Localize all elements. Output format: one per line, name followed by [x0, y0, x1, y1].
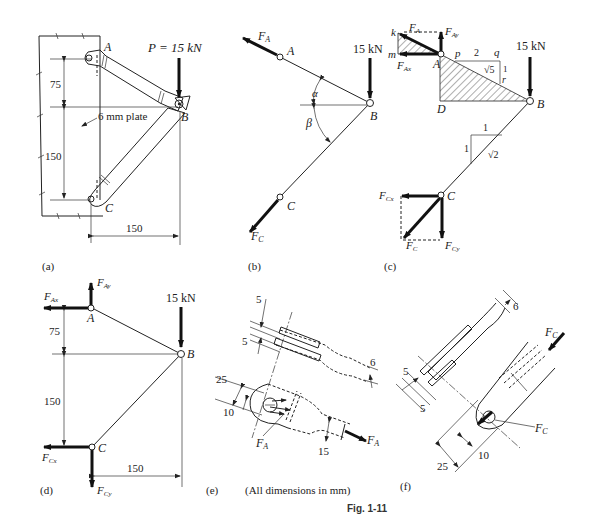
panel-c: p 2 q √5 1 r 1 1 √2 15 kN k m FA FAy FAx…	[378, 21, 546, 273]
plate-note: 6 mm plate	[98, 110, 148, 122]
dim-150-vertical: 150	[45, 150, 62, 162]
force-fa-pin-label: FA	[255, 436, 268, 451]
dim-slot-5a: 5	[403, 365, 409, 377]
member-bc	[280, 103, 370, 197]
vertical-dimensions: 75 150	[45, 59, 178, 200]
force-fa-label: FA	[408, 21, 421, 35]
dimensions-note: (All dimensions in mm)	[245, 484, 351, 497]
panel-b: α β FA FC 15 kN A B C (b)	[243, 29, 383, 273]
panel-f-label: (f)	[400, 480, 411, 493]
node-a-label: A	[432, 57, 441, 71]
panel-f: 6 5 5 FC FC 25 10 (f)	[396, 290, 564, 493]
dim-thickness-6: 6	[513, 300, 519, 312]
node-c-label: C	[98, 441, 107, 455]
dim-150-vertical: 150	[44, 395, 61, 407]
load-label: 15 kN	[166, 291, 196, 305]
load-label: P = 15 kN	[147, 40, 203, 55]
horizontal-dimension: 150	[91, 112, 180, 245]
slope-hyp-sqrt2: √2	[488, 149, 499, 160]
node-q-label: q	[494, 46, 500, 58]
panel-a-label: (a)	[42, 260, 55, 273]
slope-hyp-sqrt5: √5	[484, 64, 495, 75]
force-fay-label: FAy	[96, 276, 112, 290]
node-c-label: C	[105, 201, 114, 215]
dim-thickness-6: 6	[370, 356, 376, 368]
node-a-label: A	[103, 40, 112, 54]
dim-slot-5a: 5	[256, 293, 262, 305]
force-fa-end-label: FA	[366, 433, 379, 448]
dim-150-horizontal: 150	[126, 222, 143, 234]
force-fc-pin-label: FC	[534, 421, 548, 436]
beta-label: β	[305, 116, 312, 130]
dim-hole-10: 10	[478, 449, 490, 461]
force-fax-label: FAx	[43, 290, 59, 304]
node-a-label: A	[286, 44, 295, 58]
force-fc-end-label: FC	[544, 325, 558, 340]
node-c-label: C	[287, 199, 296, 213]
panel-e-label: (e)	[206, 484, 219, 497]
force-fc-arrow	[250, 200, 278, 232]
panel-d-label: (d)	[40, 484, 53, 497]
force-fcx-label: FCx	[41, 451, 57, 465]
node-b-label: B	[537, 97, 545, 111]
force-fc-label: FC	[405, 239, 418, 253]
dim-slot-5b: 5	[420, 402, 426, 414]
force-fc-arrow	[404, 198, 440, 238]
dim-width-25: 25	[216, 373, 228, 385]
force-fax-label: FAx	[396, 59, 412, 73]
node-d-label: D	[436, 102, 446, 116]
load-label: 15 kN	[516, 39, 546, 53]
node-r-label: r	[502, 74, 506, 85]
member-ab	[280, 57, 370, 103]
force-fa-end-arrow	[345, 431, 366, 441]
node-b-label: B	[370, 109, 378, 123]
slope-rise-1b: 1	[464, 143, 469, 154]
node-b-label: B	[187, 347, 195, 361]
dim-width-25: 25	[437, 460, 449, 472]
node-a-label: A	[86, 311, 95, 325]
node-p-label: p	[454, 47, 461, 59]
panel-e: 5 5 6 FA 25 10 15	[206, 293, 379, 497]
node-m-label: m	[388, 48, 396, 60]
dim-75: 75	[50, 78, 62, 90]
dim-hole-10: 10	[223, 406, 235, 418]
alpha-label: α	[312, 87, 318, 99]
panel-d: 75 150 150 15 kN FAx FAy FCx FCy A B C (…	[40, 276, 196, 498]
force-fc-label: FC	[250, 229, 264, 244]
slope-rise-1: 1	[503, 64, 508, 74]
dim-slot-5b: 5	[242, 335, 248, 347]
slope-run-1: 1	[483, 122, 488, 133]
force-fay-label: FAy	[444, 25, 460, 39]
panel-b-label: (b)	[248, 260, 261, 273]
figure-canvas: P = 15 kN A B C 6 mm plate 75 150 150 (a…	[0, 0, 591, 527]
support-frame	[36, 33, 103, 219]
force-fcx-label: FCx	[378, 189, 394, 203]
dim-neck-15: 15	[318, 445, 330, 457]
node-k-label: k	[391, 26, 397, 38]
panel-a: P = 15 kN A B C 6 mm plate 75 150 150 (a…	[36, 33, 203, 273]
force-fcy-label: FCy	[444, 239, 460, 253]
load-label: 15 kN	[353, 42, 383, 56]
dim-75: 75	[49, 325, 61, 337]
node-b-label: B	[181, 110, 189, 124]
slope-run-2: 2	[474, 47, 479, 58]
force-fa-label: FA	[257, 29, 270, 44]
dim-150-horizontal: 150	[127, 462, 144, 474]
node-c-label: C	[447, 189, 456, 203]
figure-caption: Fig. 1-11	[347, 503, 387, 514]
panel-c-label: (c)	[384, 260, 397, 273]
force-fcy-label: FCy	[96, 484, 112, 498]
